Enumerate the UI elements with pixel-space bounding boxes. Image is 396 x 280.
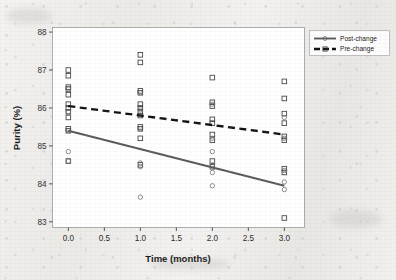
x-tick-label: 1.0 bbox=[135, 234, 147, 243]
plot-area-frame bbox=[53, 28, 305, 228]
y-axis-ticks: 838485868788 bbox=[37, 28, 52, 227]
purity-over-time-scatter-chart: 838485868788 0.00.51.01.52.02.53.0 Purit… bbox=[0, 0, 396, 280]
x-tick-label: 2.5 bbox=[243, 234, 255, 243]
figure-page: 838485868788 0.00.51.01.52.02.53.0 Purit… bbox=[0, 0, 396, 280]
y-axis-label: Purity (%) bbox=[11, 106, 22, 150]
x-tick-label: 0.0 bbox=[63, 234, 75, 243]
x-tick-label: 1.5 bbox=[171, 234, 183, 243]
y-tick-label: 84 bbox=[37, 180, 47, 189]
y-tick-label: 83 bbox=[37, 218, 47, 227]
x-axis-ticks: 0.00.51.01.52.02.53.0 bbox=[63, 228, 291, 244]
x-tick-label: 0.5 bbox=[99, 234, 111, 243]
y-tick-label: 88 bbox=[37, 28, 47, 37]
legend-label-pre-change: Pre-change bbox=[340, 45, 374, 53]
y-tick-label: 87 bbox=[37, 66, 47, 75]
y-tick-label: 86 bbox=[37, 104, 47, 113]
x-tick-label: 2.0 bbox=[207, 234, 219, 243]
x-axis-label: Time (months) bbox=[145, 253, 210, 264]
x-tick-label: 3.0 bbox=[279, 234, 291, 243]
y-tick-label: 85 bbox=[37, 142, 47, 151]
legend-label-post-change: Post-change bbox=[340, 35, 377, 43]
legend: Post-changePre-change bbox=[310, 31, 390, 56]
